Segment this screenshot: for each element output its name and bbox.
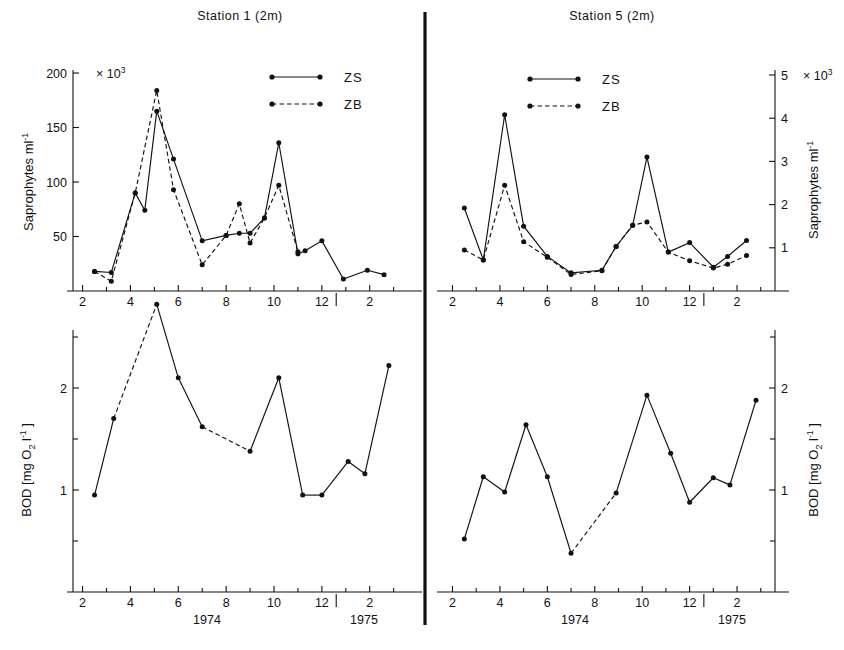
- data-point: [133, 190, 138, 195]
- data-point: [502, 490, 507, 495]
- x-tick-label: 6: [544, 596, 551, 610]
- data-point: [687, 240, 692, 245]
- data-point: [276, 183, 281, 188]
- data-point: [200, 238, 205, 243]
- panel-title-station1: Station 1 (2m): [197, 9, 283, 23]
- data-point: [295, 249, 300, 254]
- data-point: [614, 244, 619, 249]
- data-point: [614, 491, 619, 496]
- x-tick-label: 4: [496, 596, 503, 610]
- data-point: [319, 238, 324, 243]
- legend-marker: [575, 76, 580, 81]
- data-point: [109, 279, 114, 284]
- series-segment: [279, 378, 303, 495]
- y-axis-label-station1-bod: BOD [mg O2 l-1 ]: [18, 423, 37, 517]
- data-point: [200, 424, 205, 429]
- data-point: [687, 500, 692, 505]
- y-tick-label: 150: [46, 121, 67, 135]
- y-tick-label: 1: [781, 241, 788, 255]
- series-segment: [616, 395, 647, 493]
- y-axis-label-station1-saprophytes: Saprophytes ml-1: [20, 133, 36, 231]
- x-tick-label: 2: [449, 295, 456, 309]
- data-point: [200, 262, 205, 267]
- x-tick-label: 12: [683, 596, 697, 610]
- series-segment: [114, 304, 157, 418]
- series-segment: [202, 427, 250, 451]
- x-tick-label: 10: [635, 596, 649, 610]
- x-tick-label: 4: [127, 295, 134, 309]
- year-label-1974-right: 1974: [561, 613, 589, 627]
- series-line-ZB: [464, 185, 746, 274]
- legend-label-ZB-station1: ZB: [344, 97, 363, 112]
- data-point: [111, 416, 116, 421]
- data-point: [319, 493, 324, 498]
- y-tick-label: 2: [781, 382, 788, 396]
- year-label-1975-right: 1975: [718, 613, 746, 627]
- series-segment: [505, 425, 526, 492]
- series-segment: [178, 378, 202, 427]
- data-point: [237, 201, 242, 206]
- data-point: [502, 112, 507, 117]
- x-tick-label: 4: [127, 596, 134, 610]
- legend-label-ZB-station5: ZB: [602, 99, 621, 114]
- x-tick-label: 12: [315, 295, 329, 309]
- legend-label-ZS-station5: ZS: [602, 72, 621, 87]
- panel-station1-saprophytes: 50100150200246810122: [46, 67, 422, 310]
- data-point: [462, 536, 467, 541]
- data-point: [462, 206, 467, 211]
- series-segment: [671, 453, 690, 502]
- series-line-ZB: [95, 90, 298, 281]
- data-point: [569, 551, 574, 556]
- x-tick-label: 2: [79, 596, 86, 610]
- data-point: [687, 258, 692, 263]
- panel-station1-bod: 12246810122: [60, 302, 422, 610]
- data-point: [276, 375, 281, 380]
- y-axis-label-station5-bod: BOD [mg O2 l-1 ]: [805, 423, 824, 517]
- y-tick-label: 3: [781, 155, 788, 169]
- y-tick-label: 1: [781, 484, 788, 498]
- series-segment: [348, 461, 365, 473]
- data-point: [154, 302, 159, 307]
- data-point: [644, 155, 649, 160]
- x-tick-label: 2: [449, 596, 456, 610]
- year-label-1975-left: 1975: [350, 613, 378, 627]
- x-tick-label: 2: [79, 295, 86, 309]
- y-tick-label: 4: [781, 112, 788, 126]
- data-point: [171, 157, 176, 162]
- figure-root: 5010015020024681012212345246810122122468…: [0, 0, 844, 650]
- data-point: [711, 475, 716, 480]
- data-point: [502, 183, 507, 188]
- data-point: [599, 268, 604, 273]
- panel-title-station5: Station 5 (2m): [569, 9, 655, 23]
- legend-label-ZS-station1: ZS: [344, 70, 363, 85]
- y-tick-label: 2: [60, 382, 67, 396]
- y-axis-label-station5-saprophytes: Saprophytes ml-1: [805, 141, 821, 239]
- x-tick-label: 12: [683, 295, 697, 309]
- series-segment: [690, 478, 714, 502]
- series-segment: [571, 493, 616, 553]
- x-tick-label: 8: [591, 596, 598, 610]
- data-point: [154, 88, 159, 93]
- y-multiplier-left: × 103: [96, 65, 126, 81]
- data-point: [569, 272, 574, 277]
- data-point: [725, 262, 730, 267]
- x-tick-label: 2: [734, 295, 741, 309]
- data-point: [365, 268, 370, 273]
- data-point: [248, 449, 253, 454]
- series-segment: [365, 366, 389, 474]
- x-tick-label: 2: [734, 596, 741, 610]
- series-segment: [713, 478, 730, 485]
- data-point: [545, 255, 550, 260]
- x-tick-label: 10: [267, 295, 281, 309]
- legend-marker: [317, 74, 322, 79]
- data-point: [262, 215, 267, 220]
- y-tick-label: 1: [60, 484, 67, 498]
- data-point: [171, 187, 176, 192]
- data-point: [92, 493, 97, 498]
- series-segment: [250, 378, 279, 451]
- data-point: [154, 109, 159, 114]
- x-tick-label: 4: [496, 295, 503, 309]
- figure-canvas: 5010015020024681012212345246810122122468…: [0, 0, 844, 650]
- data-point: [666, 250, 671, 255]
- data-point: [276, 140, 281, 145]
